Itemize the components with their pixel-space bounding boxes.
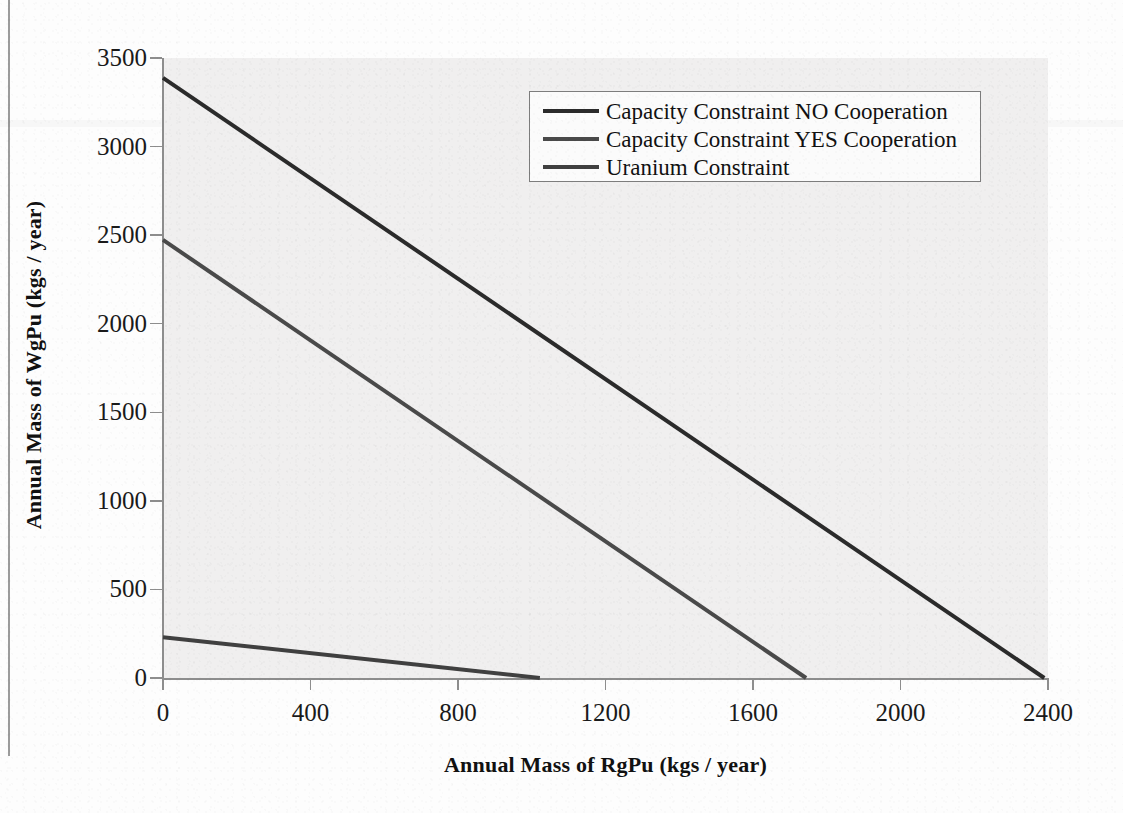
x-axis-title: Annual Mass of RgPu (kgs / year) [163,752,1048,778]
legend-label: Uranium Constraint [606,156,789,179]
legend-line-swatch [543,165,599,169]
series-line [163,637,540,678]
y-tick-label: 0 [47,665,147,690]
x-tick-mark [162,679,164,690]
y-tick-mark [150,589,162,591]
series-line [163,240,806,678]
y-tick-mark [150,323,162,325]
legend-label: Capacity Constraint YES Cooperation [606,128,957,151]
y-tick-mark [150,677,162,679]
legend-item: Capacity Constraint NO Cooperation [530,97,980,125]
legend-line-swatch [543,137,599,141]
y-tick-mark [150,412,162,414]
x-tick-mark [900,679,902,690]
y-tick-label: 1500 [47,399,147,424]
scanned-page: 0500100015002000250030003500 04008001200… [0,0,1123,813]
x-tick-label: 1200 [546,700,666,725]
y-axis-title: Annual Mass of WgPu (kgs / year) [21,135,47,595]
x-tick-label: 800 [398,700,518,725]
x-tick-mark [457,679,459,690]
legend-item: Capacity Constraint YES Cooperation [530,125,980,153]
x-tick-mark [1047,679,1049,690]
x-tick-label: 400 [251,700,371,725]
legend-item: Uranium Constraint [530,153,980,181]
y-tick-mark [150,146,162,148]
x-tick-label: 1600 [693,700,813,725]
y-tick-label: 1000 [47,488,147,513]
y-tick-label: 3000 [47,134,147,159]
y-tick-mark [150,234,162,236]
y-tick-label: 2000 [47,311,147,336]
x-tick-mark [310,679,312,690]
y-tick-label: 3500 [47,45,147,70]
constraint-line-chart: 0500100015002000250030003500 04008001200… [0,0,1123,813]
y-tick-mark [150,500,162,502]
x-tick-mark [752,679,754,690]
legend-line-swatch [543,109,599,113]
legend-label: Capacity Constraint NO Cooperation [606,100,948,123]
y-tick-mark [150,57,162,59]
x-tick-label: 0 [103,700,223,725]
y-tick-label: 2500 [47,222,147,247]
x-tick-mark [605,679,607,690]
x-tick-label: 2000 [841,700,961,725]
chart-legend: Capacity Constraint NO CooperationCapaci… [529,91,981,182]
y-tick-label: 500 [47,576,147,601]
x-tick-label: 2400 [988,700,1108,725]
